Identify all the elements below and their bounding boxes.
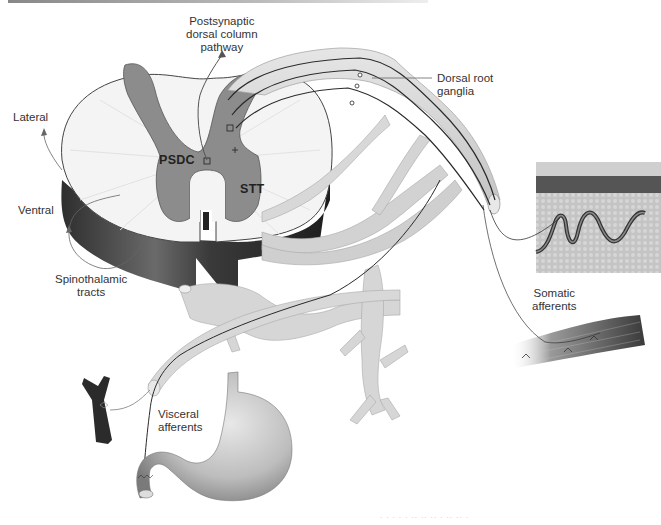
label-line: Postsynaptic [186,15,258,28]
label-line: afferents [532,300,577,313]
label-lateral: Lateral [13,111,48,124]
stomach [137,372,292,501]
label-ventral: Ventral [18,204,54,217]
spinal-cord-cross-section [62,64,333,242]
label-somatic-afferents: Somatic afferents [532,287,577,313]
label-visceral-afferents: Visceral afferents [158,408,203,434]
label-line: Spinothalamic [55,273,127,286]
label-dorsal-root-ganglia: Dorsal root ganglia [437,72,493,98]
blood-vessel [82,376,112,444]
label-psdc: PSDC [159,153,195,167]
label-line: Somatic [532,287,577,300]
label-line: tracts [55,286,127,299]
lateral-arrowhead [41,128,47,136]
skin-inset [490,162,661,273]
label-line: ganglia [437,85,493,98]
label-line: Dorsal root [437,72,493,85]
label-line: afferents [158,421,203,434]
label-line: pathway [186,41,258,54]
label-stt: STT [240,182,265,196]
label-postsynaptic-dorsal-column: Postsynaptic dorsal column pathway [186,15,258,54]
label-line: Visceral [158,408,203,421]
cropped-caption: · · · · · ·· ·· ·· · ·· ·· · [380,514,469,521]
diagram-illustration [0,0,661,525]
label-spinothalamic-tracts: Spinothalamic tracts [55,273,127,299]
label-line: dorsal column [186,28,258,41]
